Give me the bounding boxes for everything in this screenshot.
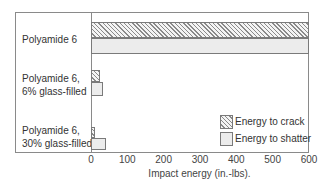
- label-line: 30% glass-filled: [22, 137, 92, 150]
- gray-swatch-icon: [220, 132, 233, 146]
- bar-shatter: [91, 82, 103, 96]
- x-tick-label: 200: [155, 154, 172, 165]
- bar-shatter: [91, 38, 309, 54]
- x-tick-label: 600: [301, 154, 318, 165]
- x-tick-label: 400: [228, 154, 245, 165]
- bar-shatter: [91, 138, 106, 150]
- bar-crack: [91, 22, 309, 38]
- x-tick-label: 100: [119, 154, 136, 165]
- legend-label: Energy to crack: [235, 116, 304, 127]
- x-tick-label: 300: [192, 154, 209, 165]
- x-tick-label: 0: [88, 154, 94, 165]
- hatched-swatch-icon: [220, 115, 233, 129]
- x-axis-label: Impact energy (in.-lbs).: [0, 168, 329, 179]
- legend-item-shatter: Energy to shatter: [220, 131, 311, 146]
- x-tick-label: 500: [264, 154, 281, 165]
- legend-label: Energy to shatter: [235, 133, 311, 144]
- label-line: Polyamide 6,: [22, 72, 86, 85]
- category-label-polyamide-6: Polyamide 6: [22, 33, 77, 46]
- category-label-30pct-glass: Polyamide 6, 30% glass-filled: [22, 124, 92, 150]
- category-label-6pct-glass: Polyamide 6, 6% glass-filled: [22, 72, 86, 98]
- label-line: Polyamide 6: [22, 33, 77, 46]
- bar-crack: [91, 127, 95, 138]
- label-line: Polyamide 6,: [22, 124, 92, 137]
- label-line: 6% glass-filled: [22, 85, 86, 98]
- legend-item-crack: Energy to crack: [220, 114, 304, 129]
- bar-crack: [91, 70, 100, 82]
